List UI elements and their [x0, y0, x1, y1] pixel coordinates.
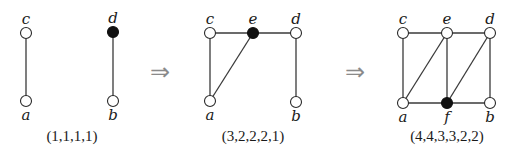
vertex-label-c: c — [399, 10, 408, 28]
vertex-a — [205, 96, 216, 107]
implies-arrow-icon: ⇒ — [345, 58, 365, 86]
vertex-d-filled — [108, 27, 119, 38]
vertex-label-a: a — [22, 106, 31, 124]
vertex-c — [205, 28, 216, 39]
arrows-layer: ⇒⇒ — [150, 58, 365, 86]
implies-arrow-icon: ⇒ — [150, 58, 170, 86]
captions-layer: (1,1,1,1)(3,2,2,2,1)(4,4,3,3,2,2) — [46, 128, 484, 145]
vertex-b — [485, 98, 496, 109]
vertex-e-filled — [248, 28, 259, 39]
vertex-label-e: e — [443, 10, 452, 28]
edge-f-d — [447, 33, 490, 103]
degree-sequence-caption: (3,2,2,2,1) — [222, 128, 285, 145]
vertex-label-b: b — [485, 108, 495, 126]
nodes-layer — [21, 27, 496, 109]
edge-a-e — [210, 33, 253, 101]
degree-sequence-caption: (4,4,3,3,2,2) — [410, 128, 484, 145]
vertex-label-d: d — [108, 9, 118, 27]
vertex-d — [291, 28, 302, 39]
vertex-label-a: a — [399, 108, 408, 126]
vertex-label-c: c — [206, 10, 215, 28]
degree-sequence-caption: (1,1,1,1) — [46, 128, 97, 145]
edge-a-e — [403, 33, 447, 103]
vertex-c — [398, 28, 409, 39]
vertex-label-d: d — [485, 10, 495, 28]
vertex-e — [442, 28, 453, 39]
vertex-a — [21, 96, 32, 107]
graph-sequence-diagram: cadbcedabcedafb (1,1,1,1)(3,2,2,2,1)(4,4… — [0, 0, 518, 153]
vertex-b — [291, 97, 302, 108]
vertex-d — [485, 28, 496, 39]
vertex-label-b: b — [108, 106, 118, 124]
vertex-label-e: e — [249, 10, 258, 28]
vertex-label-d: d — [291, 10, 301, 28]
vertex-label-a: a — [206, 106, 215, 124]
edges-layer — [26, 32, 490, 103]
vertex-label-c: c — [22, 10, 31, 28]
vertex-c — [21, 28, 32, 39]
labels-layer: cadbcedabcedafb — [22, 9, 495, 126]
vertex-f-filled — [442, 98, 453, 109]
vertex-label-b: b — [291, 107, 301, 125]
vertex-a — [398, 98, 409, 109]
vertex-label-f: f — [443, 108, 452, 126]
vertex-b — [108, 96, 119, 107]
